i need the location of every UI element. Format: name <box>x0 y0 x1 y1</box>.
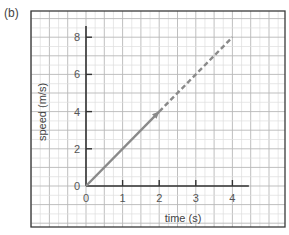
x-axis-title: time (s) <box>165 212 202 224</box>
y-tick-label: 8 <box>74 31 80 43</box>
y-tick-label: 4 <box>74 106 80 118</box>
x-tick-label: 0 <box>83 192 89 204</box>
x-tick-label: 1 <box>120 192 126 204</box>
y-tick-label: 6 <box>74 68 80 80</box>
y-tick-label: 2 <box>74 143 80 155</box>
y-tick-label: 0 <box>74 180 80 192</box>
x-tick-label: 2 <box>156 192 162 204</box>
y-axis-title: speed (m/s) <box>36 83 48 141</box>
x-tick-label: 3 <box>193 192 199 204</box>
x-tick-label: 4 <box>229 192 235 204</box>
speed-time-chart: 0246801234 time (s) speed (m/s) <box>0 0 289 235</box>
